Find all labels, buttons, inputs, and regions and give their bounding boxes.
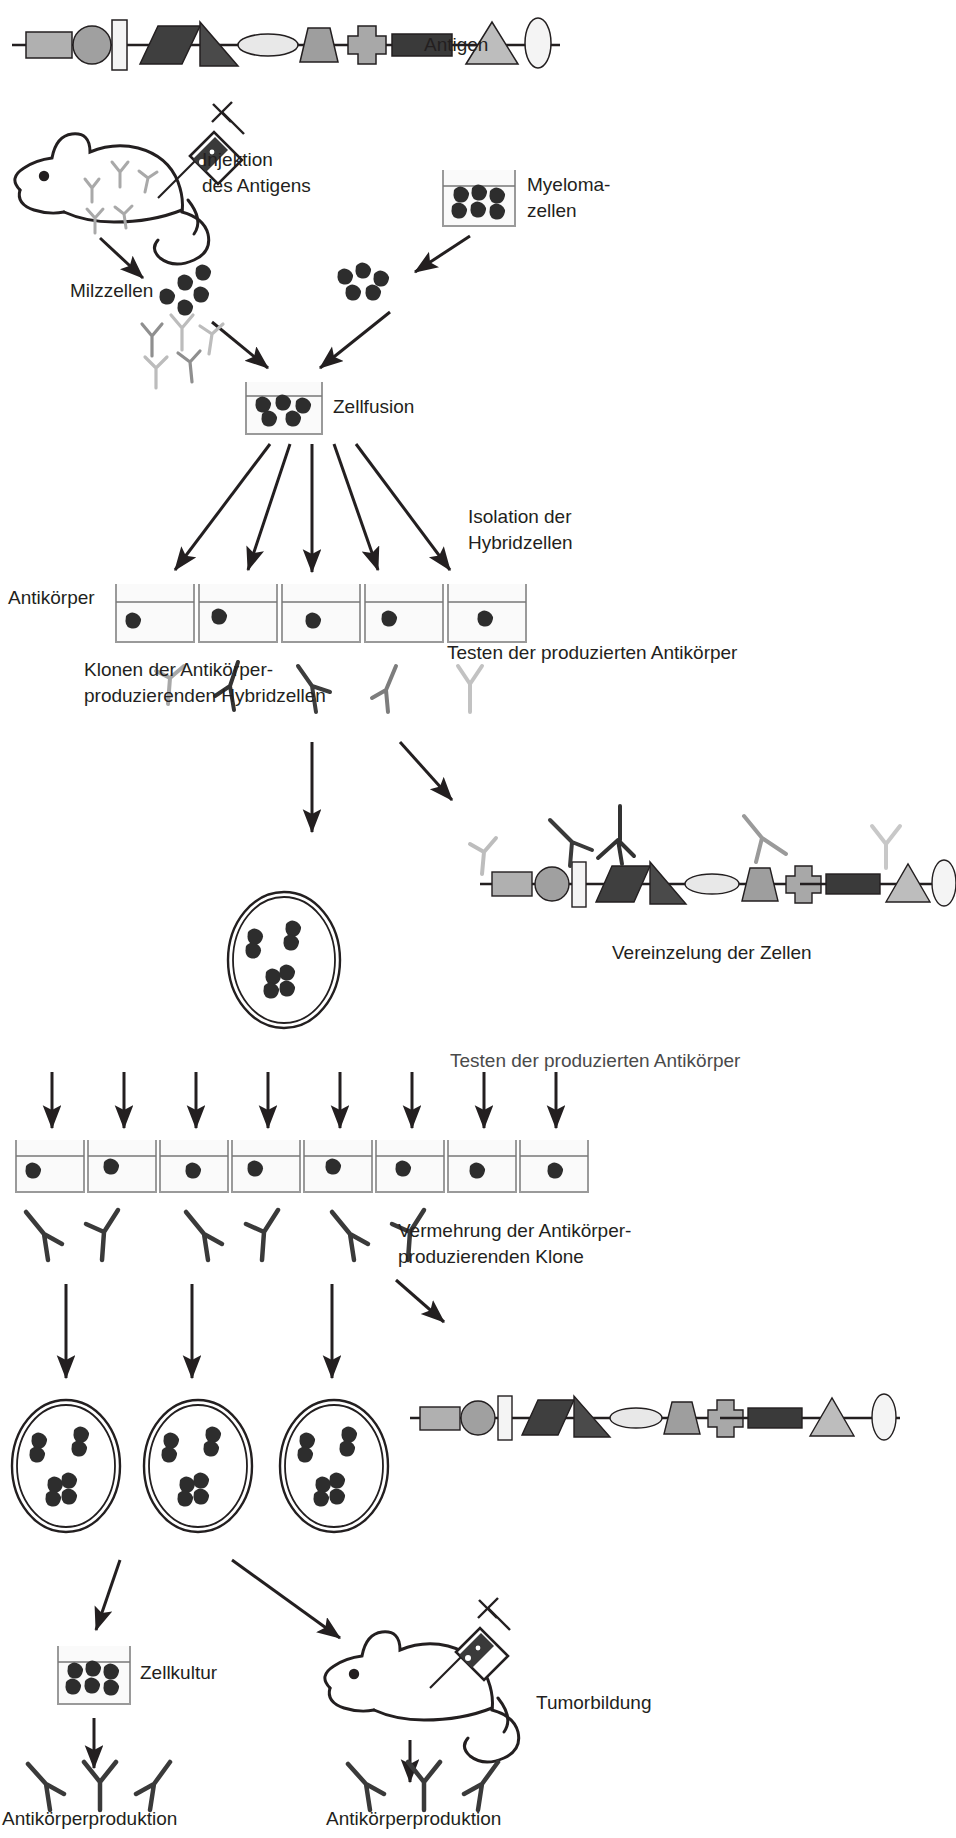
final-down-arrows: [94, 1718, 410, 1782]
label-injection-line2: des Antigens: [202, 173, 311, 199]
label-vermehrung-line1: Vermehrung der Antikörper-: [398, 1218, 631, 1244]
label-myeloma-line1: Myeloma-: [527, 172, 610, 198]
spleen-free-antibodies: [142, 315, 223, 388]
fusion-flask: [246, 382, 322, 434]
label-isolation-line2: Hybridzellen: [468, 530, 573, 556]
bound-antibodies-1: [470, 806, 900, 874]
tumor-mouse-group: [325, 1632, 519, 1762]
figure-canvas: Antigen Injektion des Antigens Myeloma- …: [0, 0, 956, 1838]
label-antikoerper: Antikörper: [8, 585, 95, 611]
clone-test-arrows: [312, 742, 452, 832]
cell-culture-flask: [58, 1646, 130, 1704]
flow-arrows-upper: [100, 236, 470, 368]
label-testen-2: Testen der produzierten Antikörper: [450, 1048, 740, 1074]
label-vereinzelung: Vereinzelung der Zellen: [612, 940, 812, 966]
label-milzzellen: Milzzellen: [70, 278, 153, 304]
final-branch-arrows: [96, 1560, 340, 1638]
single-cell-arrows: [52, 1072, 556, 1128]
label-myeloma-line2: zellen: [527, 198, 577, 224]
antibody-row-2: [26, 1210, 424, 1260]
label-injection-line1: Injektion: [202, 147, 273, 173]
tumor-syringe-icon: [430, 1598, 510, 1688]
clone-dish-upper: [228, 892, 340, 1028]
final-antibodies-right: [348, 1762, 498, 1810]
hybrid-well-row: [116, 584, 526, 642]
myeloma-flask: [443, 170, 515, 226]
label-zellfusion: Zellfusion: [333, 394, 414, 420]
mouse-injection-group: [15, 134, 209, 264]
fusion-distribution-arrows: [175, 444, 450, 572]
label-isolation-line1: Isolation der: [468, 504, 572, 530]
label-tumorbildung: Tumorbildung: [536, 1690, 651, 1716]
mouse-internal-antibodies: [85, 162, 157, 233]
label-antigen: Antigen: [424, 32, 488, 58]
label-klonen-line1: Klonen der Antikörper-: [84, 657, 273, 683]
diagram-vector-layer: [0, 0, 956, 1838]
label-testen-1: Testen der produzierten Antikörper: [447, 640, 737, 666]
label-antibody-production-left: Antikörperproduktion: [2, 1806, 177, 1832]
clone-expand-arrows: [66, 1280, 444, 1378]
label-zellkultur: Zellkultur: [140, 1660, 217, 1686]
label-klonen-line2: produzierenden Hybridzellen: [84, 683, 326, 709]
final-antibodies-left: [28, 1762, 170, 1810]
label-vermehrung-line2: produzierenden Klone: [398, 1244, 584, 1270]
single-cell-well-row: [16, 1140, 588, 1192]
myeloma-cell-cluster: [338, 262, 390, 300]
antigen-antibody-complex-2: [410, 1394, 900, 1440]
spleen-cell-cluster: [160, 264, 212, 315]
label-antibody-production-right: Antikörperproduktion: [326, 1806, 501, 1832]
clone-dish-row: [12, 1400, 388, 1532]
antigen-antibody-complex-1: [480, 860, 956, 907]
